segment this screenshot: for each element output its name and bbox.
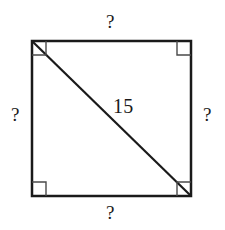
right-angle-marker-bottom-left xyxy=(32,182,46,196)
geometry-figure: ? ? ? ? 15 xyxy=(0,0,225,230)
side-label-right: ? xyxy=(203,105,211,124)
side-label-bottom: ? xyxy=(106,203,114,222)
side-label-top: ? xyxy=(106,12,114,31)
diagonal-length-label: 15 xyxy=(113,96,133,116)
side-label-left: ? xyxy=(11,105,19,124)
right-angle-marker-top-right xyxy=(177,41,191,55)
diagonal-line xyxy=(33,42,190,195)
